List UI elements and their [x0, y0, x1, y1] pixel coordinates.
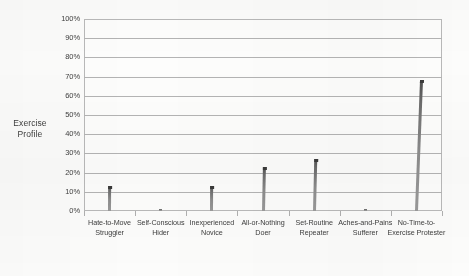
bar-top-cap [419, 80, 423, 83]
x-axis-tick [237, 211, 238, 216]
x-axis-category-label-line: Exercise Protester [379, 228, 453, 238]
y-axis-tick-label: 70% [46, 73, 80, 81]
x-axis-category-label-line: No-Time-to- [379, 218, 453, 228]
x-axis-tick [186, 211, 187, 216]
y-axis-tick-label: 90% [46, 34, 80, 42]
y-axis-title-line-1: Exercise [4, 118, 56, 129]
y-axis-tick-label: 10% [46, 188, 80, 196]
plot-area [84, 19, 442, 211]
bar-series [84, 19, 442, 211]
bar [313, 159, 317, 211]
y-axis-tick-label: 60% [46, 92, 80, 100]
bar [262, 167, 266, 211]
y-axis-title: Exercise Profile [4, 118, 56, 139]
bar-top-cap [313, 159, 317, 162]
bar [415, 80, 423, 211]
y-axis-title-line-2: Profile [4, 129, 56, 140]
bar [159, 209, 162, 211]
bar [108, 186, 111, 211]
chart-figure: Exercise Profile 100%90%80%70%60%50%40%3… [0, 0, 469, 276]
y-axis-tick-label: 100% [46, 15, 80, 23]
bar [364, 209, 367, 211]
y-axis-tick-label: 30% [46, 149, 80, 157]
x-axis-tick [442, 211, 443, 216]
y-axis-tick-label: 80% [46, 53, 80, 61]
bar [210, 186, 213, 211]
x-axis-tick [391, 211, 392, 216]
bar-top-cap [108, 186, 112, 189]
bar-top-cap [262, 167, 266, 170]
y-axis-tick-label: 20% [46, 169, 80, 177]
x-axis-tick [135, 211, 136, 216]
x-axis-tick [340, 211, 341, 216]
bar-top-cap [210, 186, 214, 189]
x-axis-tick [84, 211, 85, 216]
x-axis-tick [289, 211, 290, 216]
x-axis-category-label: No-Time-to-Exercise Protester [379, 218, 453, 237]
y-axis-tick-label: 0% [46, 207, 80, 215]
